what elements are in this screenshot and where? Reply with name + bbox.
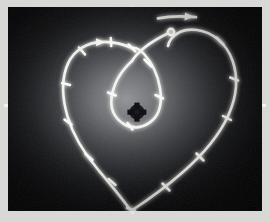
- arrow-top-icon: [96, 38, 105, 46]
- series-outer-heart-left: [63, 42, 132, 211]
- trajectory-plot: [8, 7, 262, 211]
- trace-tick-markers: [62, 38, 238, 211]
- focus-cross-marker: [127, 103, 146, 122]
- arrow-leader-icon: [185, 12, 193, 20]
- start-blob-marker: [167, 28, 176, 37]
- tick-13: [217, 38, 224, 45]
- tick-14: [108, 93, 116, 96]
- series-entry-segment: [132, 32, 171, 61]
- figure-root: Heart-shaped (cardioid) trajectory photo…: [0, 0, 270, 222]
- exposed-plate-area: [8, 7, 262, 211]
